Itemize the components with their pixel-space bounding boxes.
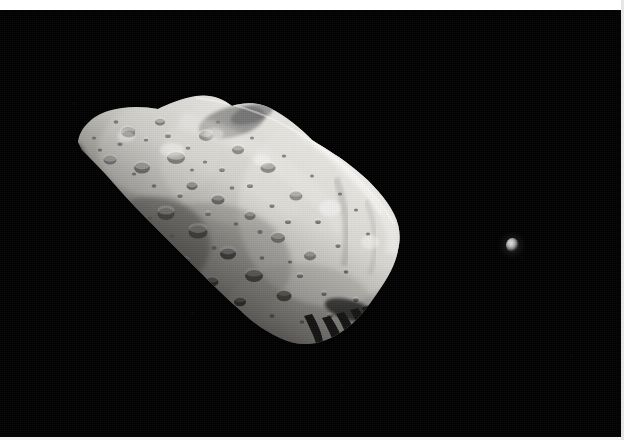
space-background <box>0 10 621 437</box>
asteroid-body <box>0 10 621 437</box>
moon-body <box>506 238 519 253</box>
image-canvas: asteroid moon space <box>0 0 624 440</box>
asteroid-illustration <box>0 10 621 437</box>
frame-border-top <box>0 0 624 10</box>
